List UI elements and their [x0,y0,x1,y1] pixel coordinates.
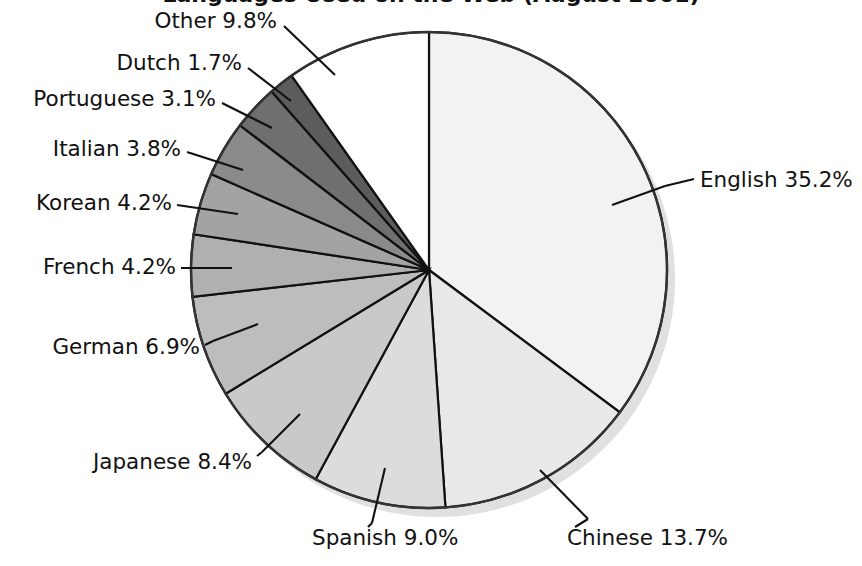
slice-label-japanese: Japanese 8.4% [91,449,252,474]
slice-label-korean: Korean 4.2% [36,190,172,215]
slice-label-spanish: Spanish 9.0% [312,525,458,550]
pie-chart-figure: English 35.2%Chinese 13.7%Spanish 9.0%Ja… [0,0,862,566]
pie-chart-canvas: English 35.2%Chinese 13.7%Spanish 9.0%Ja… [0,0,862,566]
pie-slices-group [191,32,667,508]
slice-label-german: German 6.9% [52,334,200,359]
slice-label-other: Other 9.8% [154,8,277,33]
slice-label-dutch: Dutch 1.7% [116,50,242,75]
slice-label-portuguese: Portuguese 3.1% [33,86,216,111]
slice-label-english: English 35.2% [700,167,853,192]
slice-label-french: French 4.2% [43,254,176,279]
slice-label-italian: Italian 3.8% [53,136,181,161]
slice-label-chinese: Chinese 13.7% [567,525,728,550]
